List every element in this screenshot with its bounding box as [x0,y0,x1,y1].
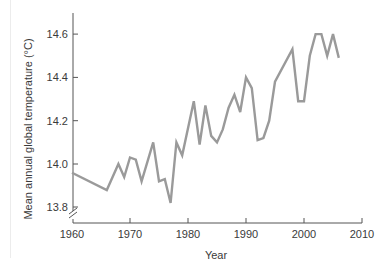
x-tick-label: 1970 [118,228,142,240]
y-axis: 13.814.014.214.414.6 [47,13,78,223]
y-tick-label: 14.4 [47,71,68,83]
data-series [72,34,339,203]
x-tick-label: 2000 [292,228,316,240]
y-tick-label: 14.0 [47,158,68,170]
x-tick-label: 1960 [60,228,84,240]
y-tick-label: 13.8 [47,201,68,213]
temperature-line [72,34,339,203]
y-axis-title: Mean annual global temperature (°C) [22,38,34,219]
x-tick-label: 1980 [176,228,200,240]
y-tick-label: 14.2 [47,115,68,127]
x-tick-label: 1990 [234,228,258,240]
y-tick-label: 14.6 [47,28,68,40]
x-axis-title: Year [205,249,228,261]
x-tick-label: 2010 [350,228,374,240]
x-axis: 196019701980199020002010 [60,218,374,240]
temperature-line-chart: 13.814.014.214.414.6 1960197019801990200… [0,0,391,272]
